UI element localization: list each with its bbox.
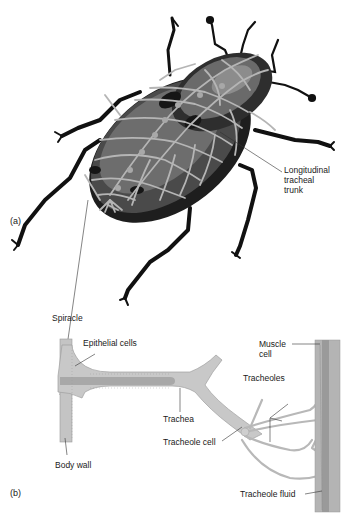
label-trachea: Trachea: [163, 414, 194, 424]
label-muscle-cell: Muscle cell: [259, 339, 286, 359]
label-longitudinal-trunk: Longitudinal tracheal trunk: [284, 165, 330, 195]
panel-b-label: (b): [10, 488, 21, 498]
label-tracheole-fluid: Tracheole fluid: [240, 489, 295, 499]
beetle-illustration: [12, 17, 334, 305]
tracheole-cell: [241, 428, 249, 436]
panel-a-label: (a): [10, 216, 21, 226]
trachea-detail: [58, 339, 340, 512]
label-spiracle: Spiracle: [52, 313, 83, 323]
label-tracheoles: Tracheoles: [243, 373, 285, 383]
label-epithelial-cells: Epithelial cells: [83, 338, 137, 348]
label-body-wall: Body wall: [55, 460, 91, 470]
trachea-tube: [58, 345, 262, 440]
label-tracheole-cell: Tracheole cell: [163, 437, 216, 447]
